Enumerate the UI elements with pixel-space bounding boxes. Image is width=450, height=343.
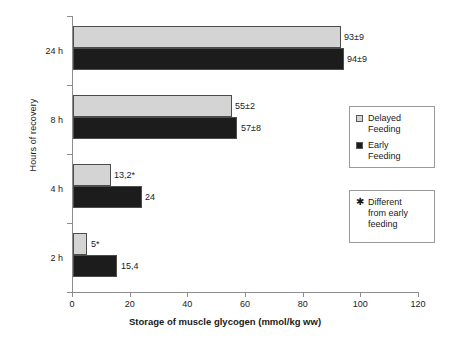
bar-label-delayed-8h: 55±2 — [235, 101, 255, 111]
legend-footnote-line2: from early — [368, 208, 408, 218]
bar-early-2h[interactable] — [73, 255, 117, 277]
y-category-label-24h: 24 h — [45, 46, 63, 56]
x-tick-label-60: 60 — [240, 299, 250, 309]
legend-series: Delayed Feeding Early Feeding — [349, 106, 435, 168]
x-tick-120 — [418, 292, 419, 297]
x-tick-label-40: 40 — [182, 299, 192, 309]
bar-delayed-2h[interactable] — [73, 233, 87, 255]
asterisk-icon: ✱ — [356, 197, 363, 207]
bar-label-early-8h: 57±8 — [241, 123, 261, 133]
bar-label-early-4h: 24 — [145, 192, 155, 202]
x-tick-100 — [360, 292, 361, 297]
x-axis-title: Storage of muscle glycogen (mmol/kg ww) — [0, 316, 450, 327]
y-tick-1 — [67, 85, 72, 86]
legend-footnote: ✱ Different from early feeding — [349, 190, 435, 243]
bar-early-8h[interactable] — [73, 117, 237, 139]
legend-item-delayed-feeding[interactable]: Delayed Feeding — [356, 113, 429, 135]
x-tick-40 — [187, 292, 188, 297]
bar-label-early-2h: 15,4 — [121, 261, 139, 271]
x-tick-label-100: 100 — [353, 299, 368, 309]
legend-item-early-feeding[interactable]: Early Feeding — [356, 140, 429, 162]
legend-footnote-line1: Different — [368, 197, 402, 207]
y-tick-3 — [67, 223, 72, 224]
y-tick-2 — [67, 154, 72, 155]
legend-footnote-row: ✱ Different from early feeding — [356, 197, 429, 230]
x-tick-80 — [303, 292, 304, 297]
bar-early-24h[interactable] — [73, 48, 344, 70]
legend-label-early-line2: Feeding — [368, 151, 401, 161]
bar-delayed-4h[interactable] — [73, 164, 111, 186]
x-tick-0 — [72, 292, 73, 297]
bar-label-early-24h: 94±9 — [347, 54, 367, 64]
x-tick-20 — [130, 292, 131, 297]
legend-swatch-delayed-icon — [356, 115, 363, 122]
x-tick-60 — [245, 292, 246, 297]
y-category-label-2h: 2 h — [50, 253, 63, 263]
bar-delayed-24h[interactable] — [73, 26, 341, 48]
x-tick-label-120: 120 — [410, 299, 425, 309]
legend-swatch-early-icon — [356, 142, 363, 149]
y-axis-title: Hours of recovery — [28, 55, 38, 215]
chart-figure: Hours of recovery 0 20 40 60 80 100 120 … — [0, 0, 450, 343]
legend-label-delayed-line1: Delayed — [368, 113, 401, 123]
legend-label-early-line1: Early — [368, 140, 389, 150]
legend-footnote-line3: feeding — [368, 219, 398, 229]
y-tick-top — [67, 16, 72, 17]
y-category-label-4h: 4 h — [50, 184, 63, 194]
y-category-label-8h: 8 h — [50, 115, 63, 125]
legend-label-early: Early Feeding — [368, 140, 401, 162]
bar-early-4h[interactable] — [73, 186, 142, 208]
x-tick-label-20: 20 — [125, 299, 135, 309]
x-tick-label-80: 80 — [298, 299, 308, 309]
legend-label-delayed: Delayed Feeding — [368, 113, 401, 135]
legend-footnote-text: Different from early feeding — [368, 197, 408, 230]
bar-label-delayed-2h: 5* — [91, 239, 100, 249]
bar-delayed-8h[interactable] — [73, 95, 232, 117]
legend-label-delayed-line2: Feeding — [368, 124, 401, 134]
y-tick-4 — [67, 292, 72, 293]
bar-label-delayed-24h: 93±9 — [344, 32, 364, 42]
x-tick-label-0: 0 — [69, 299, 74, 309]
bar-label-delayed-4h: 13,2* — [114, 170, 135, 180]
